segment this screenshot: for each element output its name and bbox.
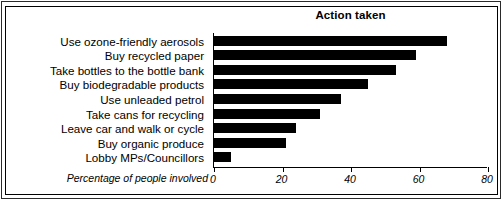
x-axis-tick	[420, 167, 421, 172]
category-label: Buy organic produce	[98, 137, 204, 152]
x-axis-tick	[214, 167, 215, 172]
category-label: Use ozone-friendly aerosols	[60, 35, 204, 50]
category-label: Leave car and walk or cycle	[61, 122, 204, 137]
plot-area	[213, 33, 487, 168]
x-axis-caption: Percentage of people involved	[67, 172, 208, 184]
x-axis-tick	[488, 167, 489, 172]
category-label: Lobby MPs/Councillors	[85, 151, 204, 166]
bar	[214, 36, 447, 46]
x-axis-tick	[351, 167, 352, 172]
bar	[214, 123, 296, 133]
bar	[214, 94, 341, 104]
bar	[214, 50, 416, 60]
bar	[214, 79, 368, 89]
x-axis-tick-label: 20	[276, 173, 288, 185]
category-label: Buy biodegradable products	[60, 78, 204, 93]
x-axis-tick-label: 40	[344, 173, 356, 185]
x-axis-tick-label: 60	[413, 173, 425, 185]
chart-title: Action taken	[213, 9, 488, 21]
bar	[214, 138, 286, 148]
chart-screenshot: Action taken Use ozone-friendly aerosols…	[0, 0, 504, 201]
category-label: Take cans for recycling	[86, 108, 204, 123]
x-axis-tick-label: 80	[481, 173, 493, 185]
bar	[214, 152, 231, 162]
bar	[214, 65, 396, 75]
category-label: Buy recycled paper	[105, 49, 204, 64]
category-label-list: Use ozone-friendly aerosolsBuy recycled …	[8, 33, 208, 168]
category-label: Use unleaded petrol	[100, 93, 204, 108]
x-axis-tick	[283, 167, 284, 172]
x-axis-tick-label: 0	[210, 173, 216, 185]
category-label: Take bottles to the bottle bank	[50, 64, 204, 79]
bar	[214, 109, 320, 119]
